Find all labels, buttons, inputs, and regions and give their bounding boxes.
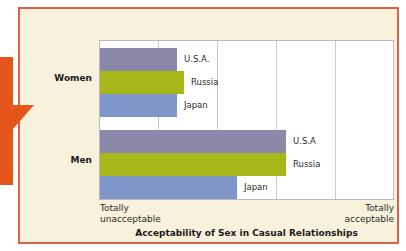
bar-men-russia[interactable] (100, 153, 286, 176)
bar-men-japan[interactable] (100, 176, 237, 199)
bar-women-russia[interactable] (100, 71, 184, 94)
chart-title: Acceptability of Sex in Casual Relations… (99, 228, 394, 238)
bar-women-japan[interactable] (100, 94, 177, 117)
group-label-men: Men (34, 155, 92, 165)
bar-label-women-japan: Japan (184, 94, 208, 117)
figure-panel: U.S.A. Russia Japan U.S.A Russia Japan W… (18, 7, 399, 244)
axis-label-totally-acceptable: Totally acceptable (320, 203, 394, 225)
bar-label-women-russia: Russia (191, 71, 218, 94)
bar-women-usa[interactable] (100, 48, 177, 71)
bar-label-men-russia: Russia (293, 153, 320, 176)
bar-label-men-japan: Japan (244, 176, 268, 199)
figure-container: U.S.A. Russia Japan U.S.A Russia Japan W… (0, 0, 406, 251)
bar-label-men-usa: U.S.A (293, 130, 316, 153)
bar-label-women-usa: U.S.A. (184, 48, 209, 71)
plot-area: U.S.A. Russia Japan U.S.A Russia Japan (99, 40, 394, 200)
bar-men-usa[interactable] (100, 130, 286, 153)
gridline-4 (335, 41, 336, 199)
axis-label-totally-unacceptable: Totally unacceptable (100, 203, 161, 225)
group-label-women: Women (34, 73, 92, 83)
